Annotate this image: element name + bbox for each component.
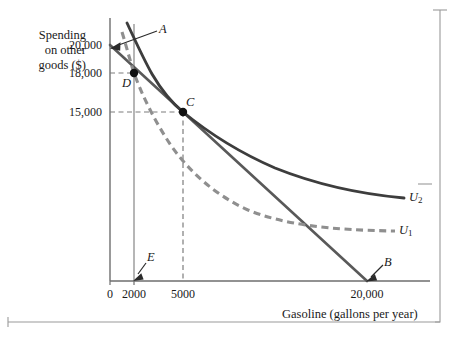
point-label-A: A [159,22,167,37]
indifference-curve-u2 [127,23,404,198]
y-tick-label-20000: 20,000 [44,38,102,52]
curve-label-u1-subscript: 1 [408,228,413,238]
arrow-line-E [138,263,146,274]
point-label-B: B [384,255,392,270]
budget-line-AB [110,45,367,281]
economics-figure: Spending on other goods ($) Gasoline (ga… [0,0,455,344]
point-D-marker [130,69,138,77]
curve-label-u2: U2 [409,190,423,206]
y-tick-label-15000: 15,000 [44,105,102,119]
curve-label-u1: U1 [399,223,413,239]
y-tick-label-18000: 18,000 [44,66,102,80]
x-tick-label-2000: 2000 [107,287,161,301]
point-label-C: C [186,95,194,110]
x-axis-title: Gasoline (gallons per year) [282,307,418,322]
curve-label-u2-base: U [409,190,418,204]
point-label-D: D [122,76,131,91]
annotation-arrows [110,31,383,282]
point-label-E: E [147,250,155,265]
x-tick-label-5000: 5000 [156,287,210,301]
x-tick-label-20000: 20,000 [340,287,394,301]
arrow-head-B [366,274,377,282]
arrow-line-B [371,265,383,277]
indifference-curve-u1 [122,32,395,231]
curve-label-u2-subscript: 2 [418,195,423,205]
axes [110,18,430,281]
curve-label-u1-base: U [399,223,408,237]
